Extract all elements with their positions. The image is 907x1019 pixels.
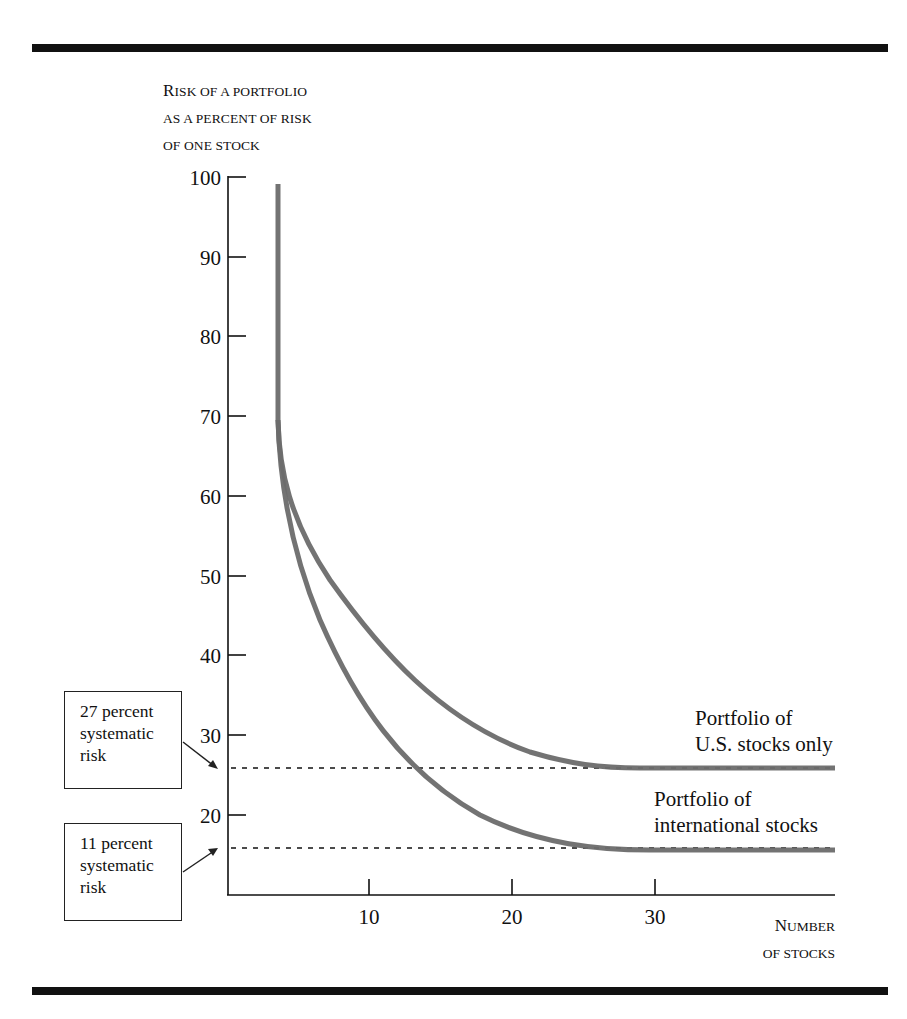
svg-text:20: 20 xyxy=(502,905,523,929)
x-axis-label: NUMBER OF STOCKS xyxy=(763,912,835,967)
label-international-stocks: Portfolio of international stocks xyxy=(654,786,818,838)
y-tick-labels: 100 90 80 70 60 50 40 30 20 xyxy=(190,166,222,828)
svg-text:70: 70 xyxy=(200,405,221,429)
label-us-stocks: Portfolio of U.S. stocks only xyxy=(695,705,833,757)
x-tick-labels: 10 20 30 xyxy=(359,905,666,929)
svg-text:100: 100 xyxy=(190,166,222,190)
svg-text:20: 20 xyxy=(200,804,221,828)
svg-text:60: 60 xyxy=(200,485,221,509)
svg-text:10: 10 xyxy=(359,905,380,929)
svg-text:90: 90 xyxy=(200,246,221,270)
label-line: Portfolio of xyxy=(695,705,833,731)
annotation-text: 27 percent xyxy=(80,700,181,722)
annotation-text: systematic xyxy=(80,854,181,876)
svg-text:50: 50 xyxy=(200,565,221,589)
annotation-box-27-percent: 27 percent systematic risk xyxy=(64,691,182,789)
x-label-line-1: UMBER xyxy=(787,919,835,934)
label-line: Portfolio of xyxy=(654,786,818,812)
annotation-text: risk xyxy=(80,744,181,766)
annotation-text: systematic xyxy=(80,722,181,744)
annotation-box-11-percent: 11 percent systematic risk xyxy=(64,823,182,921)
label-line: international stocks xyxy=(654,812,818,838)
x-ticks xyxy=(369,879,655,895)
x-label-line-2: OF STOCKS xyxy=(763,940,835,967)
annotation-text: risk xyxy=(80,876,181,898)
x-label-cap: N xyxy=(775,916,787,935)
svg-text:40: 40 xyxy=(200,644,221,668)
svg-text:80: 80 xyxy=(200,325,221,349)
y-ticks xyxy=(228,177,246,815)
svg-text:30: 30 xyxy=(200,724,221,748)
annotation-text: 11 percent xyxy=(80,832,181,854)
svg-text:30: 30 xyxy=(645,905,666,929)
arrowhead-27-percent xyxy=(208,760,218,769)
curve-us-stocks-only xyxy=(278,184,835,768)
arrow-11-percent xyxy=(183,851,214,872)
label-line: U.S. stocks only xyxy=(695,731,833,757)
